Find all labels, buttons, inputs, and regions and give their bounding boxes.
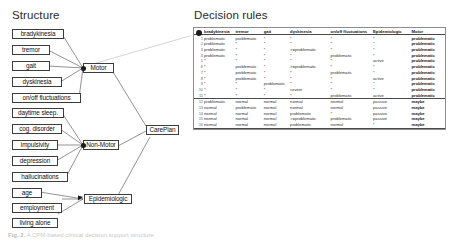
node-label: Epidemiologic [89,195,128,203]
motor-hub-dot [81,66,86,71]
cell-onoff: normal [330,128,373,130]
node-living-alone[interactable]: living alone [12,218,58,228]
node-label: bradykinesia [21,30,56,38]
node-label: dyskinesia [23,78,52,86]
non-motor-hub-dot [81,143,86,148]
node-label: employment [20,204,54,212]
structure-panel: Structure [0,0,190,241]
table-row[interactable]: 17normalnormalnormalnormalnormal*normal [194,128,445,130]
decision-rules-table-panel[interactable]: bradykinesia tremor gait dyskinesia on/o… [193,27,446,130]
decision-rules-title: Decision rules [194,9,268,21]
node-label: CarePlan [150,126,176,134]
node-label: Motor [91,64,107,72]
node-age[interactable]: age [12,188,42,198]
rules-anchor-dot [196,30,202,36]
row-index: 17 [194,128,203,130]
node-daytime-sleep[interactable]: daytime sleep. [12,108,64,118]
cell-dyskinesia: normal [289,128,329,130]
node-label: on/off fluctuations [22,94,70,102]
col-header-dyskinesia: dyskinesia [289,28,329,35]
table-body: 1problematicproblematic****problematic2p… [194,35,445,130]
node-impulsivity[interactable]: impulsivity [12,140,58,150]
node-label: cog. disorder [19,125,55,133]
node-cog-disorder[interactable]: cog. disorder [12,124,62,134]
decision-rules-table: bradykinesia tremor gait dyskinesia on/o… [194,28,445,130]
node-label: impulsivity [21,141,49,149]
table-header-row: bradykinesia tremor gait dyskinesia on/o… [194,28,445,35]
node-hallucinations[interactable]: hallucinations [12,172,68,182]
node-employment[interactable]: employment [12,203,62,213]
node-label: Non-Motor [86,141,115,149]
caption-prefix: Fig. 2. [8,232,25,238]
cell-epidemiologic: * [372,128,410,130]
cell-bradykinesia: normal [203,128,234,130]
node-tremor[interactable]: tremor [12,45,50,55]
node-non-motor[interactable]: Non-Motor [83,140,119,150]
node-dyskinesia[interactable]: dyskinesia [12,77,62,87]
cell-tremor: normal [234,128,262,130]
col-header-tremor: tremor [234,28,262,35]
node-careplan[interactable]: CarePlan [146,125,179,135]
motor-to-rules-link [86,33,190,66]
col-header-bradykinesia: bradykinesia [203,28,234,35]
node-label: hallucinations [21,173,58,181]
node-onoff-fluctuations[interactable]: on/off fluctuations [12,93,81,103]
col-header-epidemiologic: Epidemiologic [372,28,410,35]
node-label: depression [20,157,50,165]
figure-caption: Fig. 2. A CPM-based clinical decision su… [8,232,154,238]
node-gait[interactable]: gait [12,61,50,71]
node-bradykinesia[interactable]: bradykinesia [12,29,64,39]
caption-text: A CPM-based clinical decision support st… [27,232,154,238]
node-label: gait [26,62,36,70]
col-header-gait: gait [263,28,289,35]
node-motor[interactable]: Motor [83,63,114,73]
node-label: living alone [20,219,51,227]
col-header-motor: Motor [411,28,445,35]
node-epidemiologic[interactable]: Epidemiologic [84,194,132,204]
col-header-onoff: on/off fluctuations [330,28,373,35]
node-label: tremor [22,46,40,54]
node-depression[interactable]: depression [12,156,58,166]
node-label: daytime sleep. [18,109,58,117]
node-label: age [22,189,32,197]
cell-gait: normal [263,128,289,130]
cell-motor: normal [411,128,445,130]
